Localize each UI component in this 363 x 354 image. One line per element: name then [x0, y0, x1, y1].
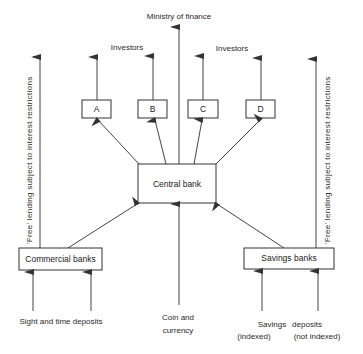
- left-free-lending-label: 'Free' lending subject to interest restr…: [25, 77, 34, 244]
- svg-text:C: C: [200, 104, 206, 114]
- arrow-central-to-d: [216, 120, 260, 164]
- box-a: A: [82, 100, 111, 118]
- commercial-banks-box: Commercial banks: [19, 248, 102, 270]
- arrow-central-to-c: [194, 120, 202, 164]
- svg-text:Savings banks: Savings banks: [261, 253, 316, 263]
- svg-text:Commercial banks: Commercial banks: [25, 254, 95, 264]
- savings-banks-box: Savings banks: [244, 248, 334, 269]
- coin-label-line1: Coin and: [162, 313, 194, 322]
- sight-time-deposits-label: Sight and time deposits: [19, 317, 102, 326]
- ministry-of-finance-label: Ministry of finance: [147, 12, 212, 21]
- svg-text:B: B: [150, 104, 156, 114]
- investors-left-label: Investors: [111, 43, 143, 52]
- box-c: C: [188, 100, 218, 118]
- arrow-commercial-to-central: [68, 204, 137, 248]
- indexed-label: (indexed): [237, 332, 271, 341]
- deposits-label: deposits: [292, 320, 322, 329]
- not-indexed-label: (not indexed): [294, 332, 341, 341]
- arrow-savings-to-central: [217, 204, 284, 248]
- box-d: D: [246, 100, 275, 118]
- svg-text:D: D: [257, 104, 263, 114]
- arrow-central-to-b: [155, 120, 166, 164]
- right-free-lending-label: 'Free' lending subject to interest restr…: [323, 77, 332, 244]
- investors-right-label: Investors: [216, 44, 248, 53]
- box-b: B: [138, 100, 167, 118]
- arrow-central-to-a: [98, 120, 139, 164]
- central-bank-box: Central bank: [138, 164, 216, 203]
- coin-label-line2: currency: [163, 326, 194, 335]
- financial-flow-diagram: Ministry of finance Investors Investors …: [0, 0, 363, 354]
- savings-label: Savings: [258, 320, 286, 329]
- svg-text:Central bank: Central bank: [153, 179, 202, 189]
- svg-text:A: A: [94, 104, 100, 114]
